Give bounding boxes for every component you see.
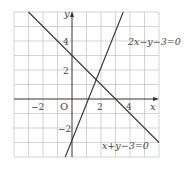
origin-label: O [60, 101, 68, 112]
coordinate-graph: y x O −2 2 4 4 2 −2 2x−y−3=0 x+y−3=0 [0, 0, 196, 169]
tick-x-2: 2 [97, 102, 103, 112]
grid [14, 12, 159, 157]
tick-x-neg2: −2 [31, 102, 44, 112]
line1-label: 2x−y−3=0 [127, 36, 181, 47]
y-axis-label: y [63, 8, 70, 19]
tick-y-4: 4 [63, 37, 69, 47]
tick-y-neg2: −2 [58, 124, 71, 134]
line2-label: x+y−3=0 [102, 140, 149, 151]
x-axis-label: x [150, 101, 156, 112]
tick-x-4: 4 [126, 102, 132, 112]
tick-y-2: 2 [63, 66, 69, 76]
line-x+y-3 [29, 12, 160, 143]
